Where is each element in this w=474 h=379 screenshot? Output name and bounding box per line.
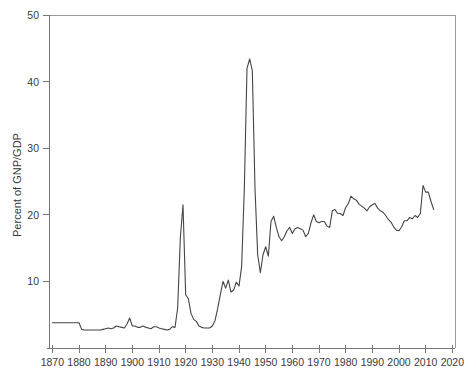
x-tick-label: 1870 <box>41 356 65 368</box>
y-tick-marks <box>43 15 49 281</box>
x-tick-label: 2000 <box>387 356 411 368</box>
x-tick-label: 1930 <box>201 356 225 368</box>
x-tick-marks <box>52 345 452 353</box>
x-tick-label: 1890 <box>94 356 118 368</box>
series-line-federal-spending <box>52 59 433 330</box>
y-axis-title: Percent of GNP/GDP <box>11 133 23 237</box>
y-tick-label: 30 <box>27 142 39 154</box>
x-tick-label: 1920 <box>174 356 198 368</box>
x-tick-label: 1880 <box>67 356 91 368</box>
x-tick-label: 2010 <box>414 356 438 368</box>
x-tick-label: 1960 <box>281 356 305 368</box>
x-tick-label: 1950 <box>254 356 278 368</box>
x-tick-label: 1990 <box>361 356 385 368</box>
y-tick-label: 20 <box>27 209 39 221</box>
line-chart: 1020304050 18701880189019001910192019301… <box>0 0 474 379</box>
y-tick-label: 50 <box>27 9 39 21</box>
y-tick-label: 40 <box>27 76 39 88</box>
y-tick-labels: 1020304050 <box>27 9 39 287</box>
x-tick-labels: 1870188018901900191019201930194019501960… <box>41 356 465 368</box>
x-tick-label: 1900 <box>121 356 145 368</box>
x-tick-label: 1940 <box>227 356 251 368</box>
x-tick-label: 2020 <box>441 356 465 368</box>
chart-container: 1020304050 18701880189019001910192019301… <box>0 0 474 379</box>
y-tick-label: 10 <box>27 275 39 287</box>
x-tick-label: 1910 <box>147 356 171 368</box>
x-tick-label: 1970 <box>307 356 331 368</box>
axes <box>43 15 455 353</box>
data-series-group <box>52 59 433 330</box>
x-tick-label: 1980 <box>334 356 358 368</box>
